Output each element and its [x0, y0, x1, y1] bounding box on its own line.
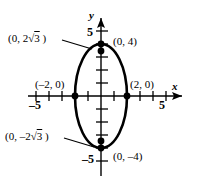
label-upper-focus: (0, 2√3 )	[8, 33, 46, 44]
y-tick-label-negative: –5	[82, 153, 94, 165]
point-dot-top-vertex	[98, 41, 105, 48]
upper-focus-leader-line	[62, 40, 92, 49]
label-bottom-vertex: (0, –4)	[113, 151, 142, 162]
x-axis-label: x	[172, 81, 178, 92]
y-axis-label: y	[89, 10, 94, 21]
label-left-vertex: (–2, 0)	[35, 79, 64, 90]
label-upper-focus-prefix: (0, 2	[8, 32, 28, 44]
point-dot-right-vertex	[124, 93, 131, 100]
label-lower-focus-suffix: )	[42, 130, 48, 142]
ellipse-graph-figure: y x 5 –5 –5 5 (0, 4) (0, –4) (–2, 0) (2,…	[0, 0, 203, 189]
point-dot-left-vertex	[72, 93, 79, 100]
label-upper-focus-suffix: )	[40, 32, 46, 44]
graph-canvas	[0, 0, 203, 189]
y-tick-label-positive: 5	[87, 26, 93, 38]
label-top-vertex: (0, 4)	[113, 36, 137, 47]
label-right-vertex: (2, 0)	[130, 79, 154, 90]
x-tick-label-positive: 5	[159, 99, 165, 111]
x-tick-label-negative: –5	[29, 99, 41, 111]
point-dot-upper-focus	[98, 48, 105, 55]
label-lower-focus-prefix: (0, –2	[5, 130, 31, 142]
point-dot-lower-focus	[98, 138, 105, 145]
label-lower-focus: (0, –2√3 )	[5, 131, 49, 142]
point-dot-bottom-vertex	[98, 145, 105, 152]
